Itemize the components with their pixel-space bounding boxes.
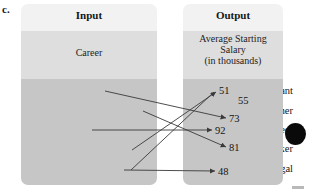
- figure-canvas: c. Input Career Accountant Computer Prog…: [0, 0, 311, 191]
- arrow-paralegal-to-48: [124, 170, 215, 171]
- arrow-social-worker-to-51: [132, 92, 216, 150]
- annotation-dot: [285, 123, 306, 145]
- mapping-arrows: [0, 0, 311, 191]
- arrow-paralegal-crossing-to-51: [131, 92, 214, 170]
- arrow-accountant-to-73: [105, 91, 226, 118]
- scan-artifact: [292, 186, 304, 189]
- arrow-computer-programmer-to-81: [143, 111, 226, 147]
